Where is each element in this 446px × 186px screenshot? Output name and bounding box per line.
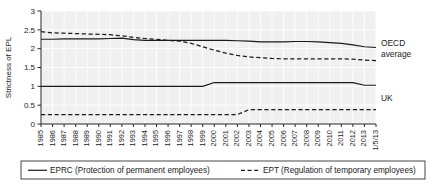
- annotation-oecd-line1: OECD: [381, 38, 405, 48]
- y-tick-label: 1.5: [24, 63, 36, 72]
- annotation-uk-line1: UK: [381, 93, 393, 103]
- chart-legend: EPRC (Protection of permanent employees)…: [21, 161, 425, 179]
- annotation-oecd-line2: average: [381, 49, 412, 59]
- x-tick-label: 2007: [290, 130, 299, 146]
- y-tick-label: 2: [31, 44, 36, 53]
- x-tick-label: 1987: [59, 130, 68, 146]
- x-tick-label: 1/5/13: [371, 130, 380, 151]
- x-tick-label: 1994: [140, 130, 149, 146]
- annotation-oecd-average: OECD average: [381, 38, 412, 59]
- y-tick-label: 2.5: [24, 26, 36, 35]
- legend-label-ept: EPT (Regulation of temporary employees): [263, 166, 416, 175]
- x-tick-label: 1989: [82, 130, 91, 146]
- legend-label-eprc: EPRC (Protection of permanent employees): [50, 166, 210, 175]
- y-tickmarks: [38, 11, 42, 124]
- x-tick-label: 2006: [279, 130, 288, 146]
- x-tick-label: 1986: [48, 130, 57, 146]
- x-tick-label: 2013: [359, 130, 368, 146]
- x-tick-label: 1997: [175, 130, 184, 146]
- epl-strictness-line-chart: 0 0.5 1 1.5 2 2.5 3 Strictness of EPL 19…: [0, 0, 446, 186]
- x-tick-label: 2000: [209, 130, 218, 146]
- epl-strictness-chart-figure: 0 0.5 1 1.5 2 2.5 3 Strictness of EPL 19…: [0, 0, 446, 186]
- x-tick-label: 1996: [163, 130, 172, 146]
- x-tick-group: 1985198619871988198919901991199219931994…: [36, 124, 380, 151]
- y-tick-labels: 0 0.5 1 1.5 2 2.5 3: [24, 7, 36, 129]
- x-tick-label: 2004: [255, 130, 264, 146]
- x-tick-label: 2009: [313, 130, 322, 146]
- x-tick-label: 1988: [71, 130, 80, 146]
- x-tick-label: 1992: [117, 130, 126, 146]
- y-tick-label: 0.5: [24, 101, 36, 110]
- x-tick-label: 1999: [198, 130, 207, 146]
- x-tick-label: 2011: [336, 130, 345, 146]
- y-tick-label: 3: [31, 7, 36, 16]
- x-tick-label: 1995: [151, 130, 160, 146]
- x-tick-label: 2003: [244, 130, 253, 146]
- x-tick-label: 1990: [94, 130, 103, 146]
- y-tick-label: 0: [31, 120, 36, 129]
- x-tick-label: 2010: [325, 130, 334, 146]
- x-tick-label: 2001: [221, 130, 230, 146]
- y-axis-title: Strictness of EPL: [4, 36, 13, 98]
- x-tick-label: 1993: [128, 130, 137, 146]
- x-tick-label: 2002: [232, 130, 241, 146]
- y-tick-label: 1: [31, 82, 36, 91]
- x-tick-label: 2008: [302, 130, 311, 146]
- x-tick-label: 1991: [105, 130, 114, 146]
- x-tick-label: 1985: [36, 130, 45, 146]
- annotation-uk: UK: [381, 93, 393, 103]
- x-tick-label: 2005: [267, 130, 276, 146]
- x-tick-label: 1998: [186, 130, 195, 146]
- x-tick-label: 2012: [348, 130, 357, 146]
